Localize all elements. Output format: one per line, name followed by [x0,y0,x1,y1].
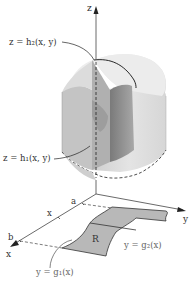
y-axis-label: y [183,215,188,224]
upper-curve-label: y = g₂(x) [124,241,162,250]
bottom-surface-label: z = h₁(x, y) [3,154,51,163]
x-tick-b-label: b [8,233,13,242]
lower-curve-label: y = g₁(x) [36,268,74,277]
solid-region [62,54,166,180]
x-tick-x-label: x [47,209,52,218]
x-axis-label: x [6,250,11,259]
x-tick-a-label: a [71,197,76,206]
region-r [50,207,167,268]
diagram-figure: z y x z = h₂(x, y) z = h₁(x, y) a x b R … [0,0,192,281]
h2-leader [62,42,94,60]
region-label: R [92,235,99,244]
z-axis-label: z [87,4,92,13]
z-axis [94,6,99,60]
top-surface-label: z = h₂(x, y) [9,38,57,47]
